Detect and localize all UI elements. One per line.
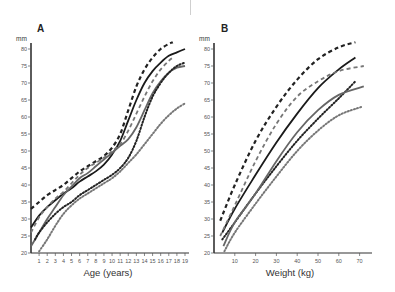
- x-tick-label: 6: [78, 258, 81, 264]
- x-tick-label: 14: [141, 258, 147, 264]
- x-tick-label: 15: [150, 258, 156, 264]
- x-tick-label: 10: [232, 258, 238, 264]
- y-tick-label: 60: [204, 114, 210, 120]
- y-tick-label: 55: [21, 131, 27, 137]
- y-tick-label: 25: [21, 233, 27, 239]
- panel-a-series-black-solid: [31, 49, 185, 228]
- x-tick-label: 11: [117, 258, 123, 264]
- x-tick-label: 18: [174, 258, 180, 264]
- panel-a-y-unit: mm: [16, 35, 27, 42]
- x-tick-label: 40: [294, 258, 300, 264]
- x-tick-label: 9: [102, 258, 105, 264]
- x-tick-label: 3: [54, 258, 57, 264]
- x-tick-label: 5: [70, 258, 73, 264]
- y-tick-label: 80: [204, 46, 210, 52]
- panel-a-series: [31, 42, 185, 251]
- x-tick-label: 1: [38, 258, 41, 264]
- panel-a-series-gray-dotted: [39, 103, 185, 251]
- y-tick-label: 75: [21, 63, 27, 69]
- x-tick-label: 70: [357, 258, 363, 264]
- y-tick-label: 70: [21, 80, 27, 86]
- y-tick-label: 45: [204, 165, 210, 171]
- x-tick-label: 20: [253, 258, 259, 264]
- y-tick-label: 20: [204, 250, 210, 256]
- y-tick-label: 80: [21, 46, 27, 52]
- x-tick-label: 13: [133, 258, 139, 264]
- panel-a-axes: 2025303540455055606570758012345678910111…: [21, 43, 189, 264]
- panel-b-chart: B mm 20253035404550556065707580102030405…: [199, 23, 372, 278]
- y-tick-label: 75: [204, 63, 210, 69]
- x-tick-label: 4: [62, 258, 65, 264]
- y-tick-label: 55: [204, 131, 210, 137]
- y-tick-label: 40: [21, 182, 27, 188]
- figure: A mm 20253035404550556065707580123456789…: [0, 0, 395, 292]
- panel-b-label: B: [221, 23, 228, 34]
- x-tick-label: 16: [158, 258, 164, 264]
- x-tick-label: 50: [315, 258, 321, 264]
- x-tick-label: 30: [273, 258, 279, 264]
- y-tick-label: 30: [21, 216, 27, 222]
- y-tick-label: 50: [21, 148, 27, 154]
- x-tick-label: 10: [109, 258, 115, 264]
- y-tick-label: 35: [21, 199, 27, 205]
- panel-b-series: [220, 42, 364, 251]
- panel-b-series-black-dashed: [220, 42, 355, 221]
- y-tick-label: 45: [21, 165, 27, 171]
- panel-b-series-black-solid: [222, 58, 355, 233]
- x-tick-label: 7: [86, 258, 89, 264]
- panel-a-x-label: Age (years): [83, 267, 132, 278]
- y-tick-label: 35: [204, 199, 210, 205]
- panel-b-x-label: Weight (kg): [266, 267, 314, 278]
- y-tick-label: 65: [21, 97, 27, 103]
- panel-a-label: A: [37, 23, 44, 34]
- panel-a-chart: A mm 20253035404550556065707580123456789…: [16, 23, 189, 278]
- panel-b-y-unit: mm: [199, 35, 210, 42]
- x-tick-label: 17: [166, 258, 172, 264]
- x-tick-label: 2: [46, 258, 49, 264]
- y-tick-label: 40: [204, 182, 210, 188]
- y-tick-label: 30: [204, 216, 210, 222]
- y-tick-label: 70: [204, 80, 210, 86]
- x-tick-label: 12: [125, 258, 131, 264]
- y-tick-label: 25: [204, 233, 210, 239]
- panel-a-series-gray-dashed: [31, 58, 173, 233]
- panel-b-series-gray-dotted: [224, 107, 361, 252]
- y-tick-label: 60: [21, 114, 27, 120]
- x-tick-label: 19: [182, 258, 188, 264]
- x-tick-label: 60: [336, 258, 342, 264]
- y-tick-label: 20: [21, 250, 27, 256]
- y-tick-label: 50: [204, 148, 210, 154]
- panel-b-series-gray-dashed: [220, 66, 364, 236]
- x-tick-label: 8: [94, 258, 97, 264]
- panel-a-series-gray-solid: [31, 66, 185, 246]
- panel-b-series-gray-solid: [223, 86, 363, 246]
- y-tick-label: 65: [204, 97, 210, 103]
